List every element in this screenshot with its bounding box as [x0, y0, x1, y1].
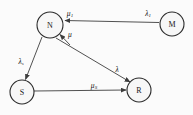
node-m-label: M — [168, 20, 175, 29]
node-n-label: N — [47, 21, 53, 30]
diagram-canvas: N M S R μ1 λ1 μ λs λ — [0, 0, 193, 115]
diagram-svg: N M S R μ1 λ1 μ λs λ — [0, 0, 193, 115]
edge-label-mu-s: μS — [91, 81, 98, 90]
node-n[interactable]: N — [37, 12, 63, 38]
edge-label-lambda-s: λs — [17, 57, 23, 66]
edge-label-mu: μ — [68, 30, 72, 39]
edge-m-to-n — [65, 21, 159, 23]
edge-n-to-s — [26, 37, 43, 80]
edge-label-mu-1: μ1 — [67, 9, 73, 18]
node-r-label: R — [136, 86, 142, 95]
edge-label-lambda: λ — [114, 65, 119, 74]
edge-label-mu-1-subscript: 1 — [71, 13, 74, 18]
edge-label-mu-symbol: μ — [68, 30, 72, 39]
edge-label-mu-s-subscript: S — [95, 85, 98, 90]
edge-n-to-r — [56, 38, 130, 82]
edge-label-lambda-1-subscript: 1 — [148, 13, 151, 18]
edge-label-lambda-s-subscript: s — [22, 61, 24, 66]
edge-label-lambda-1: λ1 — [144, 9, 151, 18]
node-s[interactable]: S — [10, 80, 34, 104]
node-s-label: S — [20, 88, 24, 97]
edge-s-to-r — [34, 90, 126, 91]
node-m[interactable]: M — [160, 12, 184, 36]
edge-label-lambda-symbol: λ — [114, 65, 119, 74]
node-r[interactable]: R — [127, 78, 151, 102]
